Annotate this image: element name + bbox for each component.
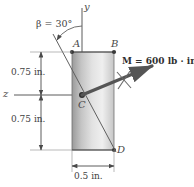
- y-axis-label: y: [84, 2, 90, 12]
- point-a-label: A: [73, 39, 80, 49]
- mechanics-figure: y z β = 30° A B C D M = 600 lb · in. 0.7…: [0, 0, 194, 187]
- point-b-label: B: [111, 39, 118, 49]
- z-axis-label: z: [3, 89, 8, 99]
- moment-label: M = 600 lb · in.: [122, 57, 194, 66]
- figure-canvas: [0, 0, 194, 187]
- dimension-label-lower: 0.75 in.: [11, 115, 45, 124]
- dimension-label-width: 0.5 in.: [74, 172, 103, 181]
- point-d-label: D: [117, 145, 125, 155]
- dimension-label-upper: 0.75 in.: [11, 68, 45, 77]
- beta-angle-label: β = 30°: [36, 19, 72, 29]
- point-c-label: C: [78, 100, 86, 110]
- point-b-dot: [112, 50, 116, 54]
